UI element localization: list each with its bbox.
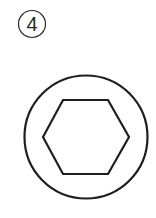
hex-socket-drawing <box>25 76 148 199</box>
label-number: 4 <box>26 13 37 35</box>
diagram-canvas: 4 <box>0 0 156 218</box>
inner-hexagon <box>43 100 129 174</box>
figure-label: 4 <box>19 11 46 38</box>
